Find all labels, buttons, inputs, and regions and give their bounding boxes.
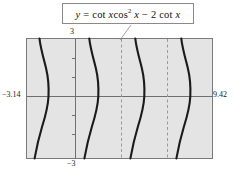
y-axis-min-label: −3 [67, 159, 76, 168]
x-axis-min-label: −3.14 [2, 90, 21, 99]
x-axis-max-label: 9.42 [213, 90, 227, 99]
label-leader-line [120, 25, 131, 40]
plot-area [0, 0, 234, 178]
y-axis-max-label: 3 [70, 27, 74, 36]
figure-container: y = cot xcos2 x − 2 cot x −3.14 9.42 3 −… [0, 0, 234, 178]
